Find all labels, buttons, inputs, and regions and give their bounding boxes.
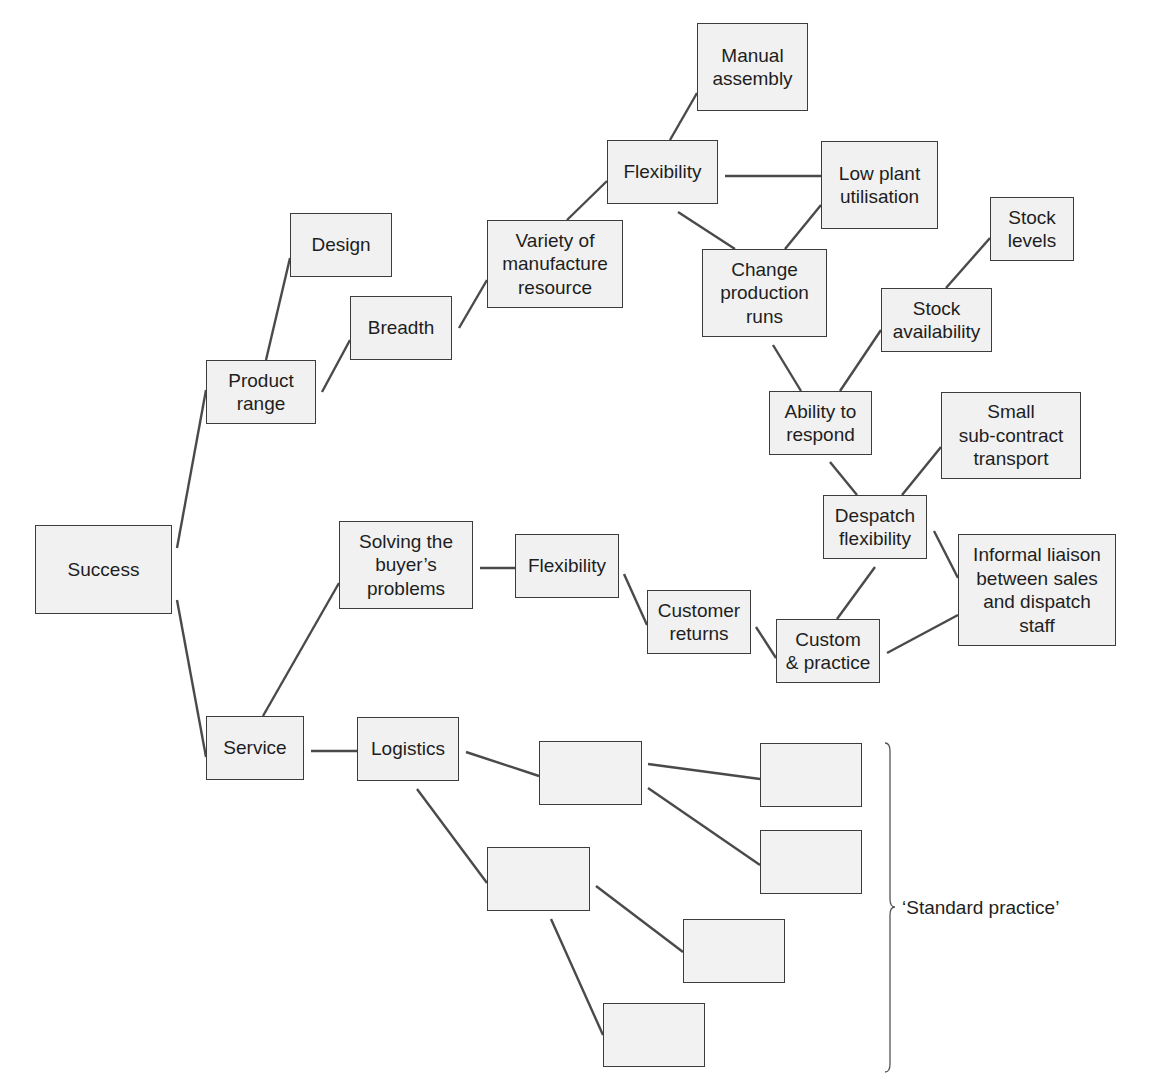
curly-brace-icon (885, 743, 895, 1072)
connector-success-to-service (177, 600, 206, 757)
connector-logistics-to-blank-a (466, 752, 539, 776)
node-solving: Solving the buyer’s problems (339, 521, 473, 609)
node-stock-levels: Stock levels (990, 197, 1074, 261)
node-low-plant: Low plant utilisation (821, 141, 938, 229)
connector-low-plant-to-change-production (785, 205, 821, 249)
diagram-canvas: ‘Standard practice’ SuccessProduct range… (0, 0, 1153, 1086)
standard-practice-label: ‘Standard practice’ (902, 896, 1059, 919)
connector-blank-b-to-blank-f (551, 919, 603, 1035)
node-informal-liaison: Informal liaison between sales and dispa… (958, 534, 1116, 646)
connector-breadth-to-variety (459, 280, 487, 328)
node-variety: Variety of manufacture resource (487, 220, 623, 308)
connector-logistics-to-blank-b (417, 789, 487, 883)
node-despatch-flex: Despatch flexibility (823, 495, 927, 559)
connector-variety-to-flexibility-1 (567, 181, 607, 220)
empty-node-blank-d (760, 830, 862, 894)
node-success: Success (35, 525, 172, 614)
node-ability-respond: Ability to respond (769, 391, 872, 455)
connector-flexibility-2-to-customer-returns (624, 574, 647, 625)
node-small-subcontract: Small sub-contract transport (941, 392, 1081, 479)
connector-blank-a-to-blank-d (648, 788, 760, 865)
connector-ability-respond-to-stock-availability (840, 330, 881, 391)
connector-product-range-to-breadth (322, 340, 350, 392)
connector-change-production-to-ability-respond (773, 345, 801, 391)
node-product-range: Product range (206, 360, 316, 424)
empty-node-blank-e (683, 919, 785, 983)
connector-success-to-product-range (177, 390, 206, 548)
connector-customer-returns-to-custom-practice (756, 627, 776, 658)
connector-despatch-flex-to-small-subcontract (902, 447, 941, 495)
node-logistics: Logistics (357, 717, 459, 781)
empty-node-blank-b (487, 847, 590, 911)
connector-blank-b-to-blank-e (596, 886, 683, 952)
connector-blank-a-to-blank-c (648, 764, 760, 779)
connector-flexibility-1-to-manual-assembly (670, 93, 697, 140)
node-manual-assembly: Manual assembly (697, 23, 808, 111)
node-design: Design (290, 213, 392, 277)
connector-service-to-solving (263, 583, 339, 716)
node-service: Service (206, 716, 304, 780)
connector-despatch-flex-to-informal-liaison (934, 531, 958, 578)
node-flexibility-1: Flexibility (607, 140, 718, 204)
node-customer-returns: Customer returns (647, 590, 751, 654)
empty-node-blank-c (760, 743, 862, 807)
connector-stock-availability-to-stock-levels (946, 238, 990, 288)
node-flexibility-2: Flexibility (515, 534, 619, 598)
connector-ability-respond-to-despatch-flex (830, 462, 857, 495)
node-breadth: Breadth (350, 296, 452, 360)
connector-despatch-flex-to-custom-practice (837, 567, 875, 619)
node-stock-availability: Stock availability (881, 288, 992, 352)
empty-node-blank-a (539, 741, 642, 805)
empty-node-blank-f (603, 1003, 705, 1067)
node-custom-practice: Custom & practice (776, 619, 880, 683)
connector-product-range-to-design (266, 258, 290, 360)
connector-custom-practice-to-informal-liaison (887, 615, 958, 653)
node-change-production: Change production runs (702, 249, 827, 337)
connector-flexibility-1-to-change-production (678, 212, 735, 249)
